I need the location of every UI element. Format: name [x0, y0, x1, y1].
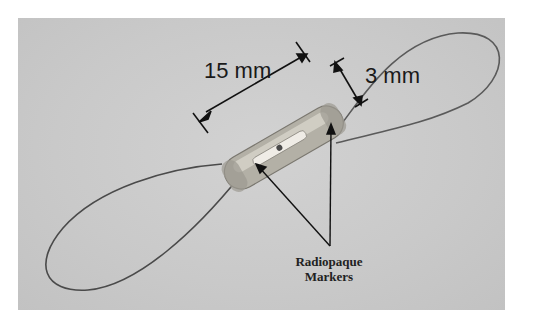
device-photo: 15 mm 3 mm Radiopaque Markers — [18, 18, 505, 310]
diameter-dimension — [330, 58, 368, 107]
marker-label-line2: Markers — [269, 269, 389, 284]
radiopaque-markers-label: Radiopaque Markers — [269, 254, 389, 284]
capsule — [218, 100, 349, 195]
lower-left-wire-loop — [46, 164, 240, 290]
diameter-label: 3 mm — [365, 65, 420, 87]
marker-label-line1: Radiopaque — [269, 254, 389, 269]
length-label: 15 mm — [204, 60, 271, 82]
length-dimension — [193, 42, 310, 133]
